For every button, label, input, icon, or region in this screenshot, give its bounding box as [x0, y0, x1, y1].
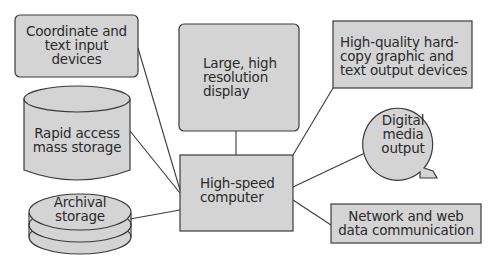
- input-devices-label: Coordinate and text input devices: [15, 24, 138, 66]
- edge-input-computer: [138, 48, 180, 190]
- archival-label: Archival storage: [29, 195, 131, 223]
- hardcopy-label: High-quality hard- copy graphic and text…: [340, 35, 472, 77]
- edge-digital-computer: [293, 152, 367, 187]
- edge-network-computer: [293, 200, 331, 225]
- mass-storage-label: Rapid access mass storage: [24, 126, 130, 154]
- network-label: Network and web data communication: [331, 209, 481, 237]
- edge-archival-computer: [130, 210, 180, 219]
- digital-media-label: Digital media output: [371, 113, 435, 155]
- edge-mass-storage-computer: [130, 131, 180, 193]
- display-label: Large, high resolution display: [203, 56, 299, 98]
- computer-label: High-speed computer: [200, 176, 290, 204]
